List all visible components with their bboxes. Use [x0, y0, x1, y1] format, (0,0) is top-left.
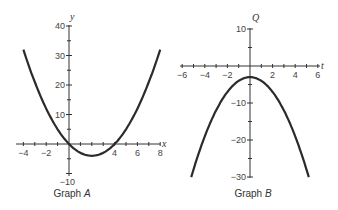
y-tick-label: 30 [55, 51, 65, 61]
graph-a: −4−246840302010−10xyGraph A [16, 11, 167, 199]
y-tick-label: 40 [55, 21, 65, 31]
x-axis-label: x [161, 138, 167, 149]
x-tick-label: 4 [293, 70, 298, 80]
y-tick-label: −10 [60, 177, 75, 187]
y-axis-label: y [69, 11, 75, 22]
x-tick-label: 8 [158, 148, 163, 158]
x-axis-label: t [321, 60, 324, 71]
figure: −4−246840302010−10xyGraph A−6−4−224610−1… [0, 0, 338, 210]
y-tick-label: 10 [55, 110, 65, 120]
x-tick-label: −4 [18, 148, 28, 158]
x-tick-label: −2 [222, 70, 232, 80]
y-tick-label: 10 [236, 24, 246, 34]
y-tick-label: −30 [231, 172, 246, 182]
x-tick-label: 2 [270, 70, 275, 80]
graph-caption: Graph B [234, 188, 272, 199]
curve [23, 50, 160, 156]
y-tick-label: −10 [231, 98, 246, 108]
x-tick-label: 6 [315, 70, 320, 80]
x-tick-label: −6 [177, 70, 187, 80]
y-axis-label: Q [252, 12, 260, 23]
x-tick-label: −4 [200, 70, 210, 80]
graph-caption: Graph A [53, 188, 91, 199]
graph-b: −6−4−224610−10−20−30tQGraph B [177, 12, 324, 199]
y-tick-label: −20 [231, 135, 246, 145]
x-tick-label: −2 [41, 148, 51, 158]
y-tick-label: 20 [55, 80, 65, 90]
x-tick-label: 6 [135, 148, 140, 158]
x-tick-label: 4 [112, 148, 117, 158]
